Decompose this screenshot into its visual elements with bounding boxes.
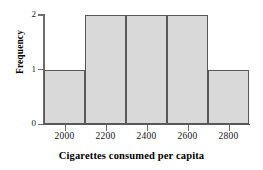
y-axis-title: Frequency	[15, 4, 25, 100]
y-tick-0	[38, 124, 43, 126]
y-tick-label-0: 0	[20, 119, 36, 129]
x-tick-label: 2200	[86, 132, 126, 142]
x-tick-label: 2600	[168, 132, 208, 142]
y-tick-2	[38, 14, 43, 16]
histogram-bar	[208, 70, 249, 125]
histogram-bar	[167, 15, 208, 124]
histogram-bar	[44, 70, 85, 125]
histogram-bar	[85, 15, 126, 124]
y-tick-label-0-text: 0	[20, 119, 36, 128]
x-tick-label: 2800	[209, 132, 249, 142]
plot-area	[44, 15, 249, 124]
x-axis-title: Cigarettes consumed per capita	[0, 150, 263, 161]
y-tick-1	[38, 69, 43, 71]
histogram-bar	[126, 15, 167, 124]
x-tick-label: 2000	[45, 132, 85, 142]
x-tick-label: 2400	[127, 132, 167, 142]
histogram-figure: 2 1 0 20002200240026002800 Cigarettes co…	[0, 0, 263, 170]
